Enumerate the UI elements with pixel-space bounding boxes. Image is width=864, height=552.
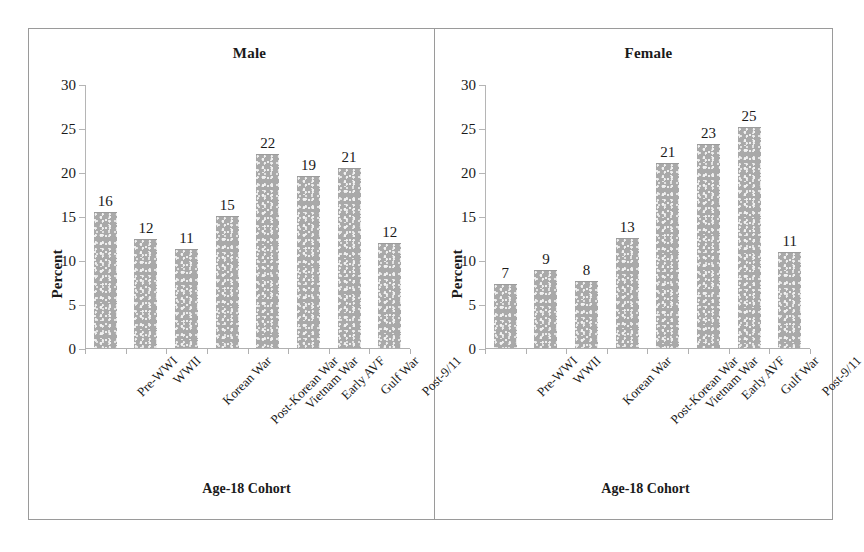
bar-value-label: 21 <box>660 144 675 161</box>
y-tick-label: 15 <box>461 209 476 226</box>
y-tick-mark <box>479 217 485 218</box>
bar: 11 <box>175 249 198 348</box>
x-axis-labels-male: Pre-WWIWWIIKorean WarPost-Korean WarViet… <box>85 349 410 459</box>
x-tick-mark <box>329 349 330 354</box>
x-tick-mark <box>729 349 730 354</box>
y-tick-label: 20 <box>461 165 476 182</box>
x-tick-mark <box>607 349 608 354</box>
y-tick-label: 25 <box>61 121 76 138</box>
x-axis-labels-female: Pre-WWIWWIIKorean WarPost-Korean WarViet… <box>485 349 810 459</box>
y-tick-mark <box>79 217 85 218</box>
x-tick-mark <box>126 349 127 354</box>
bar-value-label: 25 <box>742 108 757 125</box>
x-tick-mark <box>85 349 86 354</box>
x-tick-mark <box>207 349 208 354</box>
bar-value-label: 22 <box>260 135 275 152</box>
y-tick-mark <box>479 173 485 174</box>
chart-panel-female: Female Percent Pre-WWIWWIIKorean WarPost… <box>435 29 832 519</box>
y-tick-label: 20 <box>61 165 76 182</box>
y-axis-line <box>85 85 86 349</box>
bar-value-label: 16 <box>98 193 113 210</box>
bar-value-label: 11 <box>179 230 193 247</box>
x-tick-mark <box>526 349 527 354</box>
bar-value-label: 23 <box>701 125 716 142</box>
figure-frame: Male Percent Pre-WWIWWIIKorean WarPost-K… <box>28 28 833 520</box>
x-tick-label: Korean War <box>219 353 275 409</box>
bar-value-label: 12 <box>138 220 153 237</box>
x-tick-mark <box>410 349 411 354</box>
bar-value-label: 11 <box>782 233 796 250</box>
x-tick-mark <box>166 349 167 354</box>
bar: 11 <box>778 252 801 348</box>
y-tick-label: 5 <box>69 297 77 314</box>
bar-value-label: 15 <box>220 197 235 214</box>
bar: 23 <box>697 144 720 348</box>
bar: 16 <box>94 212 117 348</box>
bar: 13 <box>616 238 639 348</box>
bar-value-label: 21 <box>342 149 357 166</box>
x-tick-mark <box>248 349 249 354</box>
x-tick-mark <box>566 349 567 354</box>
x-tick-mark <box>369 349 370 354</box>
bar: 19 <box>297 176 320 348</box>
bar-value-label: 19 <box>301 157 316 174</box>
y-tick-label: 5 <box>468 297 476 314</box>
bar-value-label: 13 <box>620 219 635 236</box>
y-tick-label: 15 <box>61 209 76 226</box>
y-tick-mark <box>479 305 485 306</box>
bar: 12 <box>378 243 401 348</box>
y-tick-label: 0 <box>69 341 77 358</box>
y-tick-label: 10 <box>461 253 476 270</box>
bar-value-label: 8 <box>583 262 591 279</box>
x-axis-title-female: Age-18 Cohort <box>435 481 832 497</box>
y-axis-line <box>485 85 486 349</box>
bar-value-label: 7 <box>502 265 510 282</box>
y-tick-label: 30 <box>61 77 76 94</box>
y-tick-label: 10 <box>61 253 76 270</box>
plot-area-female: Pre-WWIWWIIKorean WarPost-Korean WarViet… <box>485 85 810 349</box>
x-tick-label: Post-9/11 <box>818 353 864 399</box>
chart-title-female: Female <box>435 45 832 62</box>
bar: 22 <box>256 154 279 348</box>
y-tick-mark <box>79 173 85 174</box>
y-tick-label: 30 <box>461 77 476 94</box>
y-tick-mark <box>479 129 485 130</box>
x-axis-title-male: Age-18 Cohort <box>29 481 434 497</box>
bar: 15 <box>216 216 239 348</box>
y-tick-mark <box>479 261 485 262</box>
chart-panel-male: Male Percent Pre-WWIWWIIKorean WarPost-K… <box>29 29 435 519</box>
x-tick-mark <box>485 349 486 354</box>
bar: 9 <box>534 270 557 348</box>
y-tick-label: 0 <box>468 341 476 358</box>
y-tick-mark <box>79 129 85 130</box>
y-tick-label: 25 <box>461 121 476 138</box>
bar: 21 <box>338 168 361 348</box>
bar: 21 <box>656 163 679 348</box>
bar: 25 <box>738 127 761 348</box>
x-tick-mark <box>810 349 811 354</box>
bar-value-label: 12 <box>382 224 397 241</box>
bar: 12 <box>134 239 157 348</box>
y-tick-mark <box>479 85 485 86</box>
bar: 8 <box>575 281 598 348</box>
chart-title-male: Male <box>29 45 434 62</box>
x-tick-mark <box>288 349 289 354</box>
bar: 7 <box>494 284 517 348</box>
y-tick-mark <box>79 305 85 306</box>
plot-area-male: Pre-WWIWWIIKorean WarPost-Korean WarViet… <box>85 85 410 349</box>
x-tick-mark <box>769 349 770 354</box>
x-tick-mark <box>647 349 648 354</box>
x-tick-label: Korean War <box>619 353 675 409</box>
y-tick-mark <box>79 85 85 86</box>
bar-value-label: 9 <box>542 251 550 268</box>
y-tick-mark <box>79 261 85 262</box>
x-tick-mark <box>688 349 689 354</box>
